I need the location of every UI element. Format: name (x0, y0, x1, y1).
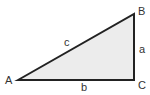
side-label-b: b (81, 81, 87, 93)
triangle-diagram: A B C c a b (0, 0, 150, 95)
vertex-label-b: B (138, 5, 145, 17)
side-label-c: c (64, 36, 70, 48)
side-label-a: a (139, 43, 146, 55)
vertex-label-c: C (138, 79, 146, 91)
vertex-label-a: A (5, 74, 13, 86)
triangle-shape (18, 14, 134, 80)
